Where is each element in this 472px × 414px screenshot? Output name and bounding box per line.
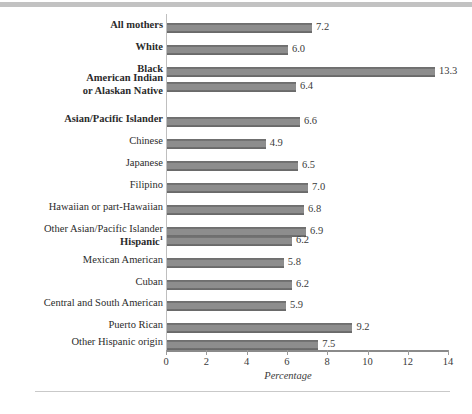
- y-axis-line: [166, 14, 167, 350]
- x-axis-tick-label: 8: [325, 356, 330, 367]
- bar: [167, 301, 286, 311]
- bar: [167, 205, 304, 215]
- bar-row-label: White: [0, 41, 163, 53]
- bar-value-label: 5.9: [290, 299, 303, 311]
- bar-row-label: Other Hispanic origin: [0, 336, 163, 348]
- bar-row-label: Hispanic1: [0, 232, 163, 247]
- x-axis-tick: [206, 350, 207, 355]
- bar-row-label: Central and South American: [0, 297, 163, 309]
- bar-value-label: 13.3: [439, 65, 457, 77]
- x-axis-tick: [287, 350, 288, 355]
- bar-row: Hawaiian or part-Hawaiian6.8: [0, 205, 472, 215]
- x-axis-tick-label: 2: [204, 356, 209, 367]
- bar: [167, 23, 312, 33]
- bar: [167, 67, 435, 77]
- bar: [167, 139, 266, 149]
- bar-row-label: Cuban: [0, 276, 163, 288]
- bar-value-label: 6.5: [302, 159, 315, 171]
- x-axis-tick: [368, 350, 369, 355]
- bar-row: Japanese6.5: [0, 161, 472, 171]
- x-axis-tick: [166, 350, 167, 355]
- bar-value-label: 6.2: [296, 278, 309, 290]
- bar-row-label: All mothers: [0, 19, 163, 31]
- bar-row-label: Puerto Rican: [0, 319, 163, 331]
- bar-value-label: 6.2: [296, 234, 309, 246]
- bar-value-label: 6.8: [308, 203, 321, 215]
- x-axis-tick-label: 4: [244, 356, 249, 367]
- bar-row: Puerto Rican9.2: [0, 323, 472, 333]
- x-axis-tick-label: 0: [163, 356, 168, 367]
- bar: [167, 258, 284, 268]
- top-divider-rule: [0, 2, 472, 7]
- bar-row: Filipino7.0: [0, 183, 472, 193]
- bar-row: Hispanic16.2: [0, 236, 472, 246]
- bar: [167, 117, 300, 127]
- chart-page: All mothers7.2White6.0Black13.3American …: [0, 0, 472, 414]
- bar-row-label: Chinese: [0, 135, 163, 147]
- bar: [167, 323, 352, 333]
- bar-row-label: Asian/Pacific Islander: [0, 113, 163, 125]
- bar-value-label: 6.0: [292, 43, 305, 55]
- bar-value-label: 5.8: [288, 256, 301, 268]
- bar-value-label: 9.2: [356, 321, 369, 333]
- bar-row-label: Hawaiian or part-Hawaiian: [0, 201, 163, 213]
- x-axis-tick-label: 14: [443, 356, 454, 367]
- x-axis-title: Percentage: [0, 370, 472, 381]
- bar-value-label: 7.2: [316, 21, 329, 33]
- bar: [167, 45, 288, 55]
- x-axis-tick: [448, 350, 449, 355]
- bar-value-label: 6.6: [304, 115, 317, 127]
- bar-row: Central and South American5.9: [0, 301, 472, 311]
- bar-row: Chinese4.9: [0, 139, 472, 149]
- bottom-divider-rule: [35, 391, 450, 392]
- bar-row: All mothers7.2: [0, 23, 472, 33]
- bar-value-label: 4.9: [270, 137, 283, 149]
- bar-row-label: Filipino: [0, 179, 163, 191]
- x-axis-tick-label: 12: [403, 356, 414, 367]
- bar-row-label: American Indianor Alaskan Native: [0, 72, 163, 97]
- x-axis-line: [166, 350, 448, 352]
- label-footnote-marker: 1: [160, 234, 163, 241]
- bar: [167, 183, 308, 193]
- bar-row: Asian/Pacific Islander6.6: [0, 117, 472, 127]
- bar-chart-plot-area: All mothers7.2White6.0Black13.3American …: [0, 14, 472, 354]
- bar-row-label: Japanese: [0, 157, 163, 169]
- bar-row: White6.0: [0, 45, 472, 55]
- bar-row: Cuban6.2: [0, 280, 472, 290]
- bar: [167, 280, 292, 290]
- x-axis-tick-label: 6: [284, 356, 289, 367]
- bar: [167, 236, 292, 246]
- x-axis-tick: [408, 350, 409, 355]
- bar: [167, 161, 298, 171]
- bar-value-label: 7.5: [322, 338, 335, 350]
- x-axis-tick-label: 10: [362, 356, 373, 367]
- bar-value-label: 6.4: [300, 80, 313, 92]
- bar: [167, 340, 318, 350]
- bar: [167, 82, 296, 92]
- x-axis-tick: [327, 350, 328, 355]
- bar-row-label: Mexican American: [0, 254, 163, 266]
- bar-row: American Indianor Alaskan Native6.4: [0, 82, 472, 92]
- bar-row: Mexican American5.8: [0, 258, 472, 268]
- x-axis-tick: [247, 350, 248, 355]
- bar-value-label: 7.0: [312, 181, 325, 193]
- x-axis-title-text: Percentage: [264, 370, 311, 381]
- bar-row: Other Hispanic origin7.5: [0, 340, 472, 350]
